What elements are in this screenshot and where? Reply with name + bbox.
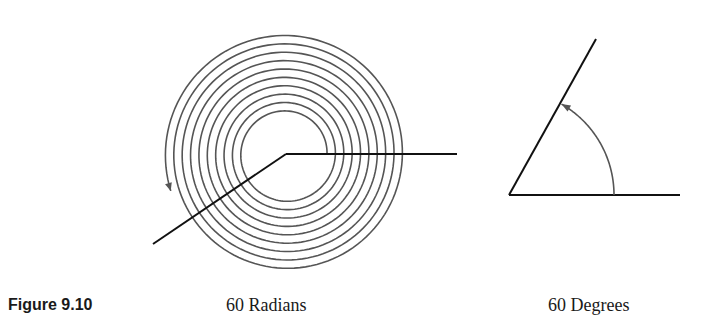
- degrees-label: 60 Degrees: [548, 295, 629, 316]
- angle-arc: [562, 104, 615, 195]
- figure-number: Figure 9.10: [8, 296, 92, 314]
- spiral-arc: [165, 36, 402, 269]
- arrowhead-icon: [165, 182, 172, 191]
- terminal-ray: [153, 154, 286, 244]
- terminal-ray: [509, 39, 596, 195]
- figure-canvas: [0, 0, 707, 329]
- radians-label: 60 Radians: [226, 295, 307, 316]
- radians-diagram: [153, 36, 457, 269]
- arrowhead-icon: [562, 104, 572, 112]
- degrees-diagram: [509, 39, 680, 195]
